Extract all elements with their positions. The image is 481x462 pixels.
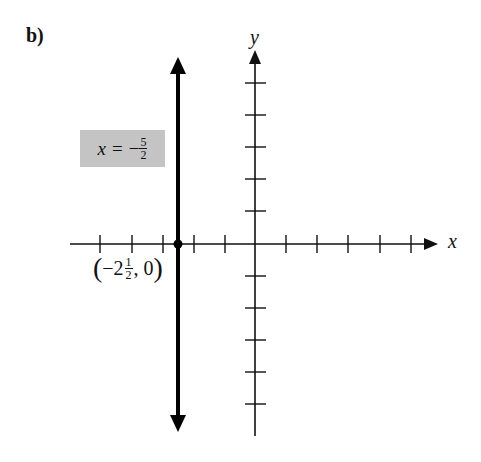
y-axis-arrow-icon <box>249 50 261 64</box>
x-intercept-point <box>174 240 183 249</box>
x-axis-label: x <box>448 230 457 253</box>
point-label-whole: −2 <box>102 257 123 280</box>
equation-label: x = − 5 2 <box>80 130 165 167</box>
point-label-denominator: 2 <box>126 269 132 281</box>
equation-sign: − <box>129 138 140 160</box>
line-up-arrow-icon <box>170 57 186 74</box>
coordinate-plane <box>0 0 481 462</box>
equation-lhs: x <box>98 138 106 160</box>
y-axis-label: y <box>250 26 259 49</box>
point-label: ( −2 1 2 , 0 ) <box>93 254 163 282</box>
line-down-arrow-icon <box>170 415 186 432</box>
point-label-open-paren: ( <box>93 254 102 282</box>
equation-denominator: 2 <box>140 149 146 161</box>
point-label-rest: , 0 <box>134 257 154 280</box>
point-label-close-paren: ) <box>154 254 163 282</box>
point-label-numerator: 1 <box>125 256 133 269</box>
equation-equals: = <box>112 138 123 160</box>
point-label-fraction: 1 2 <box>125 256 133 281</box>
x-axis-arrow-icon <box>424 238 438 250</box>
equation-fraction: 5 2 <box>139 136 147 161</box>
